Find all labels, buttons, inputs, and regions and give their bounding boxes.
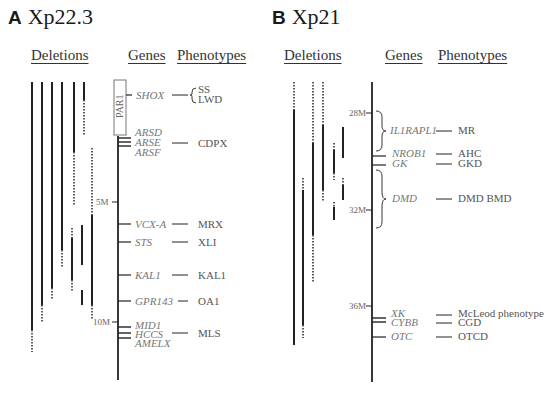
phenotype-mr: MR [458, 124, 476, 136]
phenotype-mrx: MRX [198, 218, 223, 230]
gene-shox: SHOX [136, 89, 165, 101]
phenotype-otcd: OTCD [458, 330, 488, 342]
scale-tick-5m: 5M [96, 197, 109, 207]
scale-tick-28m: 28M [349, 108, 366, 118]
gene-amelx: AMELX [134, 337, 172, 349]
phenotype-gkd: GKD [458, 157, 482, 169]
scale-tick-36m: 36M [349, 301, 366, 311]
panel-a-deletions [32, 82, 92, 330]
gene-gk: GK [392, 157, 408, 169]
par1-label: PAR1 [114, 94, 125, 118]
phenotype-cgd: CGD [458, 316, 481, 328]
gene-gpr143: GPR143 [135, 295, 173, 307]
deletion-map-diagram: PAR1 5M 10M SHOX ARSD ARSE ARSF VCX-A ST… [0, 0, 555, 404]
panel-b-deletions [294, 110, 343, 345]
gene-cybb: CYBB [391, 316, 418, 328]
gene-kal1: KAL1 [134, 269, 161, 281]
phenotype-dmd-bmd: DMD BMD [458, 192, 512, 204]
scale-tick-10m: 10M [93, 317, 110, 327]
phenotype-xli: XLI [198, 236, 217, 248]
gene-il1rapl1: IL1RAPL1 [389, 124, 437, 136]
gene-otc: OTC [391, 330, 413, 342]
phenotype-lwd: LWD [198, 93, 222, 105]
phenotype-kal1: KAL1 [198, 269, 226, 281]
gene-sts: STS [135, 236, 153, 248]
gene-dmd: DMD [391, 192, 417, 204]
gene-vcx-a: VCX-A [135, 218, 166, 230]
panel-b-deletion-uncertain [294, 82, 343, 338]
phenotype-mls: MLS [198, 327, 221, 339]
phenotype-oa1: OA1 [198, 295, 219, 307]
phenotype-cdpx: CDPX [198, 137, 227, 149]
scale-tick-32m: 32M [349, 205, 366, 215]
gene-arsf: ARSF [134, 146, 161, 158]
